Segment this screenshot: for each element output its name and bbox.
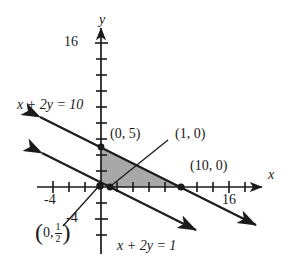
fraction-denominator: 2	[55, 234, 62, 245]
point-dot-1-0	[107, 184, 114, 191]
figure-container: y x 16 -4 -4 16 x + 2y = 10 x + 2y = 1 (…	[0, 0, 292, 267]
point-label-0-5: (0, 5)	[110, 127, 140, 141]
line1-equation-label: x + 2y = 10	[17, 98, 83, 112]
x-axis-label: x	[268, 168, 274, 182]
point-label-0-half: ( 0, 1 2 )	[35, 222, 71, 244]
x-tick-label-16: 16	[222, 193, 236, 207]
point-dot-origin-half	[96, 182, 104, 190]
point-dot-0-5	[98, 144, 105, 151]
point-dot-10-0	[177, 183, 184, 190]
y-tick-label-16: 16	[64, 35, 78, 49]
point-label-0-half-x: 0,	[43, 226, 54, 240]
fraction-one-half: 1 2	[55, 222, 62, 244]
paren-close: )	[63, 223, 71, 242]
x-tick-label-neg4: -4	[44, 193, 56, 207]
paren-open: (	[35, 223, 43, 242]
line2-equation-label: x + 2y = 1	[117, 239, 176, 253]
fraction-numerator: 1	[55, 222, 62, 233]
y-axis-label: y	[99, 13, 105, 27]
point-label-1-0: (1, 0)	[175, 127, 205, 141]
point-label-10-0: (10, 0)	[190, 159, 227, 173]
